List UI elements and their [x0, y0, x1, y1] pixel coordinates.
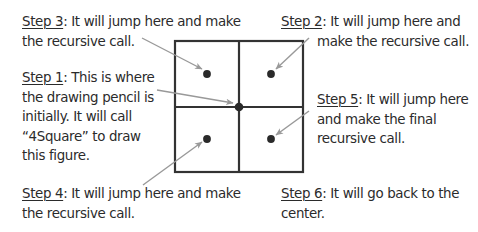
annotation-step1: Step 1: This is where the drawing pencil… — [22, 68, 154, 166]
annotation-step3: Step 3: It will jump here and make the r… — [22, 12, 241, 51]
center-dot — [235, 103, 244, 112]
annotation-step5: Step 5: It will jump here and make the f… — [317, 90, 468, 149]
step-label: Step 5 — [317, 92, 358, 107]
step-label: Step 3 — [22, 14, 63, 29]
annotation-step2: Step 2: It will jump here and make the r… — [281, 12, 469, 51]
step-label: Step 6 — [281, 186, 322, 201]
annotation-step4: Step 4: It will jump here and make the r… — [22, 184, 241, 223]
top-right-dot — [267, 70, 275, 78]
annotation-step6: Step 6: It will go back to the center. — [281, 184, 459, 223]
bottom-right-dot — [267, 135, 275, 143]
step-label: Step 2 — [281, 14, 322, 29]
step-label: Step 1 — [22, 70, 63, 85]
bottom-left-dot — [203, 135, 211, 143]
arrow-step1 — [157, 90, 233, 103]
top-left-dot — [203, 70, 211, 78]
step-label: Step 4 — [22, 186, 63, 201]
